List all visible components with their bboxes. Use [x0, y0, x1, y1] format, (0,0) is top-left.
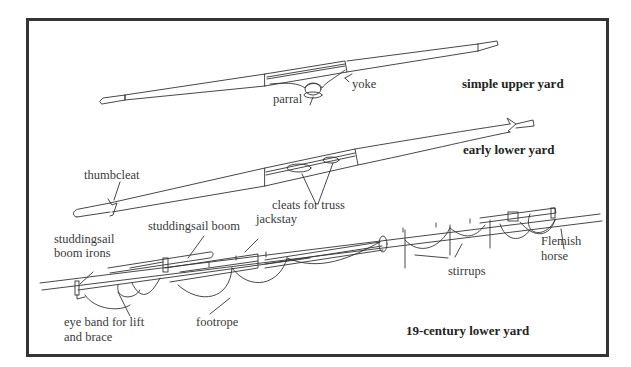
label-horse: horse [541, 249, 568, 264]
label-thumbcleat: thumbcleat [84, 168, 140, 183]
label-and-brace: and brace [64, 330, 112, 345]
title-early-lower-yard: early lower yard [463, 142, 554, 158]
label-studdingsail: studdingsail [54, 232, 114, 247]
label-footrope: footrope [196, 315, 238, 330]
label-cleats-for-truss: cleats for truss [272, 198, 345, 213]
title-19-century-lower-yard: 19-century lower yard [406, 323, 529, 339]
title-simple-upper-yard: simple upper yard [462, 76, 564, 92]
label-parral: parral [273, 92, 302, 107]
label-jackstay: jackstay [256, 212, 297, 227]
label-eye-band-for-lift: eye band for lift [64, 315, 144, 330]
nineteenth-century-lower-yard-drawing [40, 208, 602, 316]
label-boom-irons: boom irons [54, 246, 111, 261]
label-flemish: Flemish [541, 234, 581, 249]
label-studdingsail-boom: studdingsail boom [148, 219, 240, 234]
yards-illustration [0, 0, 631, 367]
label-stirrups: stirrups [448, 264, 486, 279]
label-yoke: yoke [352, 77, 376, 92]
